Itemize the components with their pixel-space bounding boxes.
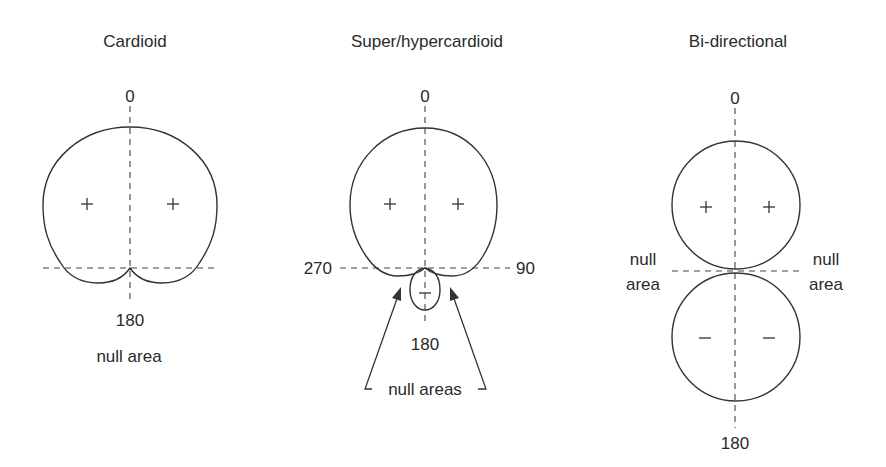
supercardioid-front-lobe: [350, 128, 497, 276]
bidirectional-left-null-label-line2: area: [626, 275, 661, 294]
bidirectional-left-null-label-line1: null: [630, 250, 656, 269]
bidirectional-label-180: 180: [721, 434, 749, 453]
bidirectional-right-null-label-line2: area: [809, 275, 844, 294]
cardioid-title: Cardioid: [103, 32, 166, 51]
cardioid-null-area-label: null area: [96, 347, 162, 366]
supercardioid-diagram: Super/hypercardioid 0 270 90 180 null ar…: [304, 32, 535, 399]
bidirectional-title: Bi-directional: [689, 32, 787, 51]
cardioid-label-180: 180: [116, 311, 144, 330]
supercardioid-title: Super/hypercardioid: [351, 32, 503, 51]
bidirectional-diagram: Bi-directional 0 null area null area 180: [626, 32, 844, 453]
supercardioid-label-270: 270: [304, 259, 332, 278]
supercardioid-label-0: 0: [420, 87, 429, 106]
bidirectional-right-null-label-line1: null: [813, 250, 839, 269]
cardioid-label-0: 0: [125, 87, 134, 106]
supercardioid-label-90: 90: [516, 259, 535, 278]
arrow-head-icon: [450, 287, 459, 301]
bidirectional-label-0: 0: [730, 89, 739, 108]
left-null-arrow: [365, 293, 399, 389]
cardioid-diagram: Cardioid 0 180 null area: [43, 32, 218, 366]
supercardioid-null-areas-label: null areas: [388, 380, 462, 399]
bidirectional-front-lobe: [672, 141, 800, 269]
arrow-head-icon: [392, 287, 401, 301]
bidirectional-rear-lobe: [672, 273, 800, 401]
right-null-arrow: [452, 293, 486, 389]
supercardioid-label-180: 180: [411, 335, 439, 354]
